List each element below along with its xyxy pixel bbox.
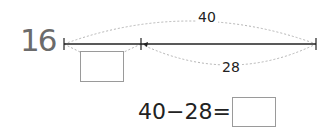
gap-left-arc <box>64 44 80 52</box>
equation: 40−28= <box>138 97 276 127</box>
gap-right-arc <box>124 44 141 52</box>
part-label: 28 <box>220 60 242 74</box>
total-brace-arc <box>64 21 316 44</box>
total-label: 40 <box>196 10 218 24</box>
answer-box[interactable] <box>232 97 276 127</box>
unknown-part-box[interactable] <box>80 51 124 82</box>
equation-text: 40−28= <box>138 101 231 123</box>
